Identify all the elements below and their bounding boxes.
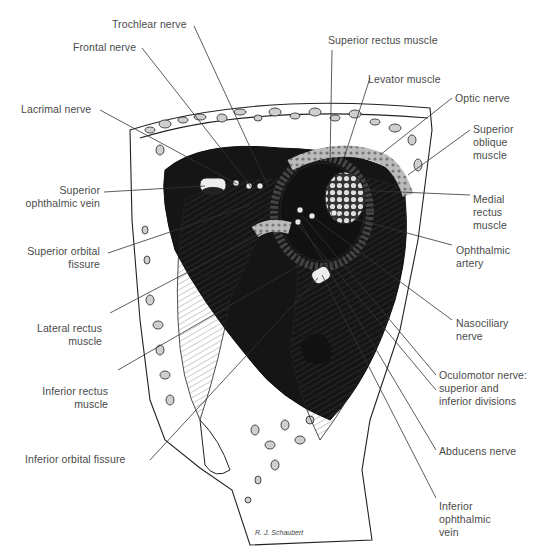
label-trochlear-nerve: Trochlear nerve bbox=[112, 18, 187, 31]
label-superior-rectus-muscle: Superior rectus muscle bbox=[328, 34, 438, 47]
label-superior-ophthalmic-vein: Superior ophthalmic vein bbox=[26, 184, 100, 210]
label-ophthalmic-artery: Ophthalmic artery bbox=[456, 244, 510, 270]
label-lateral-rectus-muscle: Lateral rectus muscle bbox=[37, 322, 102, 348]
label-optic-nerve: Optic nerve bbox=[455, 92, 510, 105]
label-medial-rectus-muscle: Medial rectus muscle bbox=[473, 193, 507, 232]
artist-signature: R. J. Schaubert bbox=[255, 529, 304, 536]
label-lacrimal-nerve: Lacrimal nerve bbox=[21, 103, 91, 116]
label-abducens-nerve: Abducens nerve bbox=[439, 445, 516, 458]
label-frontal-nerve: Frontal nerve bbox=[73, 41, 136, 54]
label-levator-muscle: Levator muscle bbox=[368, 73, 441, 86]
label-inferior-orbital-fissure: Inferior orbital fissure bbox=[25, 453, 125, 466]
label-inferior-rectus-muscle: Inferior rectus muscle bbox=[42, 385, 108, 411]
label-superior-oblique-muscle: Superior oblique muscle bbox=[473, 123, 514, 162]
label-oculomotor-nerve: Oculomotor nerve: superior and inferior … bbox=[439, 369, 527, 408]
label-inferior-ophthalmic-vein: Inferior ophthalmic vein bbox=[439, 500, 491, 539]
label-nasociliary-nerve: Nasociliary nerve bbox=[456, 317, 508, 343]
orbit-illustration: R. J. Schaubert bbox=[0, 0, 548, 556]
label-superior-orbital-fissure: Superior orbital fissure bbox=[27, 245, 100, 271]
